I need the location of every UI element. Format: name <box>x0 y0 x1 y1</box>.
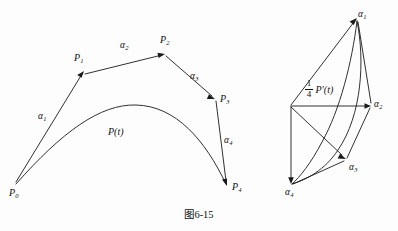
figure-vector-graphics <box>0 0 398 231</box>
vector-alpha4-arrowhead <box>222 179 227 187</box>
vector-label-alpha1: α1 <box>38 112 46 122</box>
control-point-label-P4: P4 <box>232 182 241 192</box>
vector-label-alpha4: α4 <box>224 136 232 146</box>
fraction-numerator: 1 <box>306 79 313 89</box>
bezier-curve-label: P(t) <box>108 127 124 137</box>
control-point-label-P3: P3 <box>220 94 229 104</box>
hodograph-label-alpha3: α3 <box>349 163 357 173</box>
control-point-label-P0: P0 <box>9 188 18 198</box>
hodograph-label-alpha1: α1 <box>358 10 366 20</box>
hodograph-curve-inner <box>292 21 357 184</box>
scaled-derivative-label: 1 4 P′(t) <box>305 79 333 99</box>
hodograph-label-alpha4: α4 <box>285 188 293 198</box>
vector-alpha1-arrowhead <box>77 71 84 78</box>
figure-container: P0 P1 P2 P3 P4 α1 α2 α3 α4 P(t) 1 4 P′(t… <box>0 0 398 231</box>
control-point-label-P1: P1 <box>74 53 83 63</box>
hodograph-vector-alpha1-arrowhead <box>350 18 357 25</box>
control-point-label-P2: P2 <box>160 35 169 45</box>
vector-alpha1-shaft <box>16 74 82 182</box>
hodograph-curve-outer <box>292 21 361 184</box>
vector-alpha2-arrowhead <box>158 53 166 58</box>
fraction-one-quarter: 1 4 <box>305 79 313 99</box>
figure-caption: 图6-15 <box>0 206 398 221</box>
hodograph-label-alpha2: α2 <box>374 100 382 110</box>
vector-label-alpha2: α2 <box>120 41 128 51</box>
bezier-curve-path <box>16 105 226 184</box>
hodograph-edge-alpha2-alpha3 <box>347 108 370 158</box>
vector-alpha2-shaft <box>85 55 162 74</box>
fraction-denominator: 4 <box>306 90 313 100</box>
vector-alpha3-shaft <box>166 56 212 96</box>
derivative-expression: P′(t) <box>316 84 334 95</box>
vector-label-alpha3: α3 <box>190 72 198 82</box>
hodograph-edge-alpha1-alpha2 <box>358 22 371 103</box>
